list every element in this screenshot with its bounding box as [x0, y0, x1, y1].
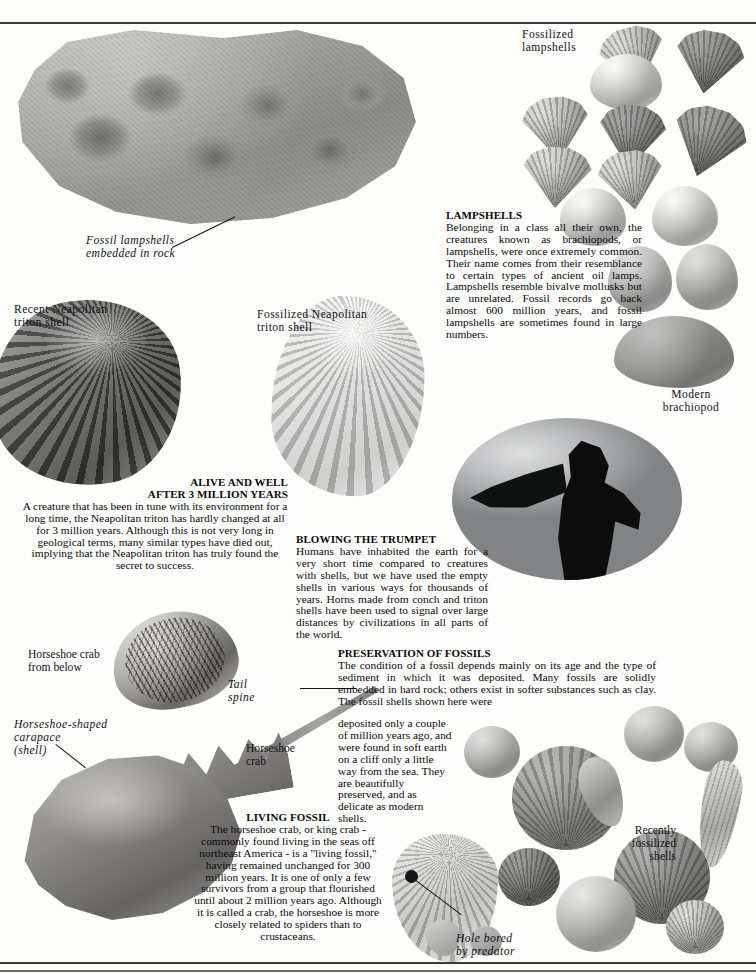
caption-tail-spine: Tail spine — [228, 678, 298, 704]
caption-fossilized-lampshells: Fossilized lampshells — [522, 28, 632, 54]
article-living-fossil: LIVING FOSSIL The horseshoe crab, or kin… — [190, 812, 386, 943]
fossil-lampshell-photo-3 — [590, 54, 662, 110]
caption-horseshoe-crab-from-below: Horseshoe crab from below — [28, 648, 158, 674]
reference-book-page: Fossil lampshells embedded in rock Fossi… — [0, 0, 756, 974]
article-preservation-of-fossils-narrow: deposited only a couple of million years… — [338, 718, 452, 825]
caption-recent-neapolitan-triton: Recent Neapolitan triton shell — [14, 303, 164, 329]
bottom-rule — [0, 962, 756, 964]
article-blowing-the-trumpet-body: Humans have inhabited the earth for a ve… — [296, 545, 488, 640]
caption-horseshoe-crab: Horseshoe crab — [246, 742, 336, 768]
caption-hole-bored-by-predator: Hole bored by predator — [456, 932, 586, 958]
caption-recently-fossilized-shells: Recently fossilized shells — [572, 824, 676, 863]
caption-fossilized-neapolitan-triton: Fossilized Neapolitan triton shell — [257, 308, 417, 334]
top-rule — [0, 22, 756, 24]
fossil-lampshell-photo-10 — [652, 186, 718, 246]
fossil-lampshell-photo-6 — [659, 95, 756, 188]
article-living-fossil-body: The horseshoe crab, or king crab - commo… — [194, 823, 382, 942]
fossil-shell-photo-a — [464, 726, 520, 778]
article-lampshells: LAMPSHELLS Belonging in a class all thei… — [446, 210, 642, 341]
article-preservation-of-fossils-body-narrow: deposited only a couple of million years… — [338, 717, 452, 824]
fossil-lampshell-photo-2 — [667, 24, 751, 100]
bottom-rule-thin — [0, 970, 756, 972]
fossil-shell-photo-b — [624, 706, 684, 762]
article-preservation-of-fossils-body-wide: The condition of a fossil depends mainly… — [338, 659, 656, 707]
conch-horn-shape — [462, 460, 570, 529]
article-blowing-the-trumpet: BLOWING THE TRUMPET Humans have inhabite… — [296, 534, 488, 641]
caption-horseshoe-shaped-carapace: Horseshoe-shaped carapace (shell) — [14, 718, 164, 757]
article-alive-and-well-body: A creature that has been in tune with it… — [23, 500, 288, 572]
fossil-shell-photo-h — [498, 848, 560, 906]
article-alive-and-well: ALIVE AND WELL AFTER 3 MILLION YEARS A c… — [22, 477, 288, 572]
article-preservation-of-fossils-wide: PRESERVATION OF FOSSILS The condition of… — [338, 648, 656, 708]
caption-modern-brachiopod: Modern brachiopod — [636, 388, 746, 414]
brachiopod-photo-right — [676, 244, 738, 310]
caption-fossil-lampshells-in-rock: Fossil lampshells embedded in rock — [86, 234, 236, 260]
article-lampshells-body: Belonging in a class all their own, the … — [446, 221, 642, 340]
fossil-shell-photo-l — [666, 900, 724, 954]
fossil-rock-slab-photo — [10, 26, 420, 226]
person-silhouette — [535, 441, 641, 580]
